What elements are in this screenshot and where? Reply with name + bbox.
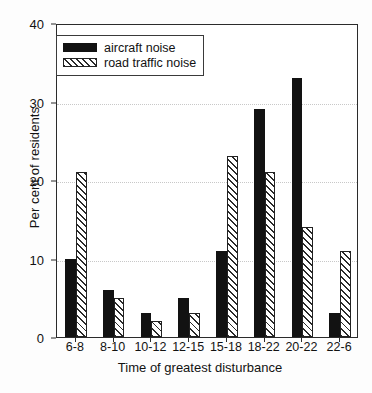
legend-label: road traffic noise (104, 56, 196, 70)
x-tick-mark-8-10 (113, 338, 114, 342)
bar-6-8-road-traffic-noise[interactable] (76, 172, 87, 337)
bar-group-18-22 (246, 25, 284, 337)
bar-8-10-aircraft-noise[interactable] (103, 290, 114, 337)
x-axis-tick-labels: 6-88-1010-1212-1515-1818-2220-2222-6 (56, 340, 358, 360)
legend-label: aircraft noise (104, 41, 176, 55)
bar-12-15-aircraft-noise[interactable] (178, 298, 189, 337)
bar-12-15-road-traffic-noise[interactable] (189, 313, 200, 337)
x-tick-label-10-12: 10-12 (134, 340, 166, 354)
x-tick-label-15-18: 15-18 (210, 340, 242, 354)
x-tick-mark-12-15 (188, 338, 189, 342)
chart-legend: aircraft noiseroad traffic noise (56, 35, 204, 76)
y-tick-label-20: 20 (30, 174, 44, 189)
x-tick-mark-22-6 (339, 338, 340, 342)
legend-item-road-traffic-noise[interactable]: road traffic noise (63, 55, 196, 70)
bar-8-10-road-traffic-noise[interactable] (114, 298, 125, 337)
x-tick-label-18-22: 18-22 (248, 340, 280, 354)
chart-figure: Per cent of residents 010203040 6-88-101… (0, 0, 372, 393)
x-tick-mark-6-8 (75, 338, 76, 342)
x-tick-label-22-6: 22-6 (327, 340, 352, 354)
bar-20-22-aircraft-noise[interactable] (292, 78, 303, 337)
x-tick-label-12-15: 12-15 (172, 340, 204, 354)
y-axis-tick-labels: 010203040 (0, 0, 52, 393)
bar-group-22-6 (321, 25, 359, 337)
y-tick-label-0: 0 (37, 331, 44, 346)
x-tick-mark-18-22 (264, 338, 265, 342)
x-tick-mark-10-12 (150, 338, 151, 342)
x-axis-title: Time of greatest disturbance (40, 360, 360, 375)
bar-15-18-aircraft-noise[interactable] (216, 251, 227, 337)
bar-15-18-road-traffic-noise[interactable] (227, 156, 238, 337)
x-tick-label-20-22: 20-22 (285, 340, 317, 354)
legend-swatch-icon (63, 43, 97, 52)
bar-22-6-road-traffic-noise[interactable] (340, 251, 351, 337)
bar-group-15-18 (208, 25, 246, 337)
x-tick-mark-15-18 (226, 338, 227, 342)
legend-swatch-icon (63, 58, 97, 67)
bar-18-22-road-traffic-noise[interactable] (265, 172, 276, 337)
y-tick-label-10: 10 (30, 252, 44, 267)
x-tick-mark-20-22 (301, 338, 302, 342)
legend-item-aircraft-noise[interactable]: aircraft noise (63, 40, 196, 55)
x-tick-label-6-8: 6-8 (66, 340, 84, 354)
bar-18-22-aircraft-noise[interactable] (254, 109, 265, 337)
bar-6-8-aircraft-noise[interactable] (65, 259, 76, 338)
y-tick-label-40: 40 (30, 17, 44, 32)
bar-22-6-aircraft-noise[interactable] (329, 313, 340, 337)
bar-group-20-22 (284, 25, 322, 337)
bar-10-12-road-traffic-noise[interactable] (151, 321, 162, 337)
bar-20-22-road-traffic-noise[interactable] (302, 227, 313, 337)
x-tick-label-8-10: 8-10 (100, 340, 125, 354)
y-tick-label-30: 30 (30, 95, 44, 110)
bar-10-12-aircraft-noise[interactable] (141, 313, 152, 337)
